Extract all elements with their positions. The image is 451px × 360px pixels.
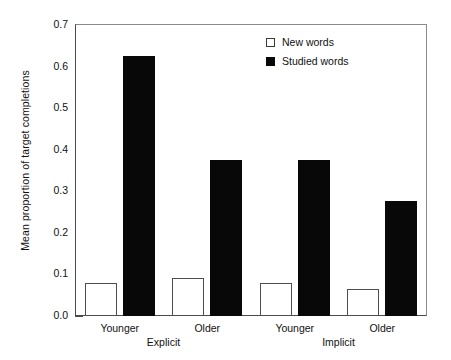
- bar-chart: Mean proportion of target completions 0.…: [0, 0, 451, 360]
- filled-square-icon: [266, 57, 275, 66]
- y-tick-label: 0.4: [38, 143, 68, 155]
- y-tick-label: 0.6: [38, 60, 68, 72]
- x-tick-label: Older: [369, 322, 395, 334]
- bar: [385, 201, 417, 316]
- open-square-icon: [266, 38, 275, 47]
- bar: [298, 160, 330, 316]
- bar: [260, 283, 292, 316]
- x-group-label: Explicit: [147, 336, 180, 348]
- y-tick-label: 0.2: [38, 226, 68, 238]
- legend-item-studied-words: Studied words: [266, 55, 349, 67]
- y-tick-label: 0.3: [38, 184, 68, 196]
- x-tick-label: Older: [194, 322, 220, 334]
- bar: [172, 278, 204, 316]
- legend: New words Studied words: [266, 36, 349, 67]
- y-tick-label: 0.1: [38, 267, 68, 279]
- y-tick: [75, 316, 83, 317]
- bars-layer: [76, 25, 426, 316]
- legend-label: Studied words: [282, 55, 349, 67]
- bar: [85, 283, 117, 316]
- y-tick-label: 0.0: [38, 309, 68, 321]
- x-tick-label: Younger: [275, 322, 314, 334]
- x-tick-label: Younger: [100, 322, 139, 334]
- y-tick-label: 0.7: [38, 18, 68, 30]
- legend-label: New words: [282, 36, 334, 48]
- y-axis-title: Mean proportion of target completions: [14, 16, 36, 305]
- bar: [210, 160, 242, 316]
- bar: [347, 289, 379, 316]
- x-group-label: Implicit: [322, 336, 355, 348]
- bar: [123, 56, 155, 316]
- y-tick-label: 0.5: [38, 101, 68, 113]
- legend-item-new-words: New words: [266, 36, 349, 48]
